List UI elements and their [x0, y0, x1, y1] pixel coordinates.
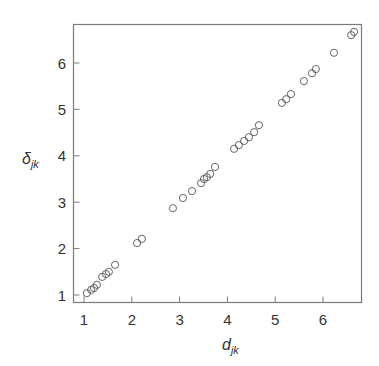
x-tick-label: 5	[271, 311, 279, 328]
data-point-circle	[179, 194, 186, 201]
x-tick-label: 4	[223, 311, 231, 328]
data-point-circle	[230, 145, 237, 152]
data-point-circle	[133, 239, 140, 246]
x-axis-label: djk	[222, 336, 239, 356]
data-point-circle	[255, 122, 262, 129]
data-point-circle	[188, 187, 195, 194]
x-tick-label: 2	[128, 311, 136, 328]
y-tick-label: 3	[58, 194, 66, 211]
data-point-circle	[312, 65, 319, 72]
data-point-circle	[211, 163, 218, 170]
data-point-circle	[111, 261, 118, 268]
x-tick-label: 6	[319, 311, 327, 328]
y-tick-label: 6	[58, 55, 66, 72]
y-axis-label: δjk	[22, 150, 39, 170]
data-point-circle	[300, 77, 307, 84]
data-point-circle	[278, 99, 285, 106]
x-tick-label: 1	[80, 311, 88, 328]
data-point-circle	[138, 235, 145, 242]
data-point-circle	[330, 49, 337, 56]
data-point-circle	[251, 129, 258, 136]
data-point-circle	[287, 90, 294, 97]
x-axis-ticks: 123456	[80, 297, 327, 329]
scatter-chart: 123456 123456 djk δjk	[0, 0, 379, 366]
y-tick-label: 4	[58, 147, 66, 164]
x-tick-label: 3	[175, 311, 183, 328]
y-tick-label: 5	[58, 101, 66, 118]
data-point-circle	[169, 205, 176, 212]
y-axis-ticks: 123456	[58, 55, 80, 304]
data-point-circle	[241, 137, 248, 144]
data-points	[83, 28, 357, 296]
y-tick-label: 1	[58, 287, 66, 304]
data-point-circle	[308, 70, 315, 77]
y-tick-label: 2	[58, 240, 66, 257]
